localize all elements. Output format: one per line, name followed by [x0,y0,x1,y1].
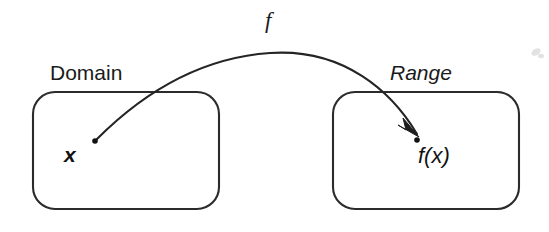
diagram-canvas: Domain Range f x f(x) [0,0,549,232]
domain-label: Domain [50,61,122,84]
output-point-dot [414,137,420,143]
input-point-dot [92,138,98,144]
output-point-label: f(x) [418,143,450,168]
function-label: f [265,8,275,33]
domain-set-box [33,92,219,209]
scan-smudge-artifact-secondary [538,54,544,58]
input-point-label: x [63,143,77,166]
range-label: Range [390,61,452,84]
function-diagram-figure: Domain Range f x f(x) [0,0,549,232]
